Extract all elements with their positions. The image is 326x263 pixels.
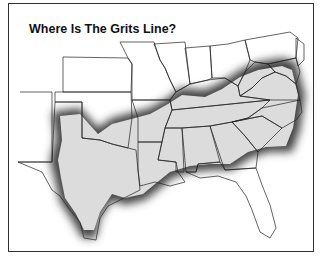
state-indiana bbox=[185, 46, 212, 84]
state-kansas bbox=[63, 57, 132, 92]
state-illinois bbox=[154, 42, 190, 92]
state-florida bbox=[186, 162, 276, 238]
grits-line-map bbox=[0, 0, 326, 263]
map-title: Where Is The Grits Line? bbox=[29, 22, 176, 36]
state-new-mexico bbox=[18, 92, 52, 162]
state-new-jersey bbox=[296, 38, 304, 66]
state-missouri bbox=[120, 42, 176, 100]
